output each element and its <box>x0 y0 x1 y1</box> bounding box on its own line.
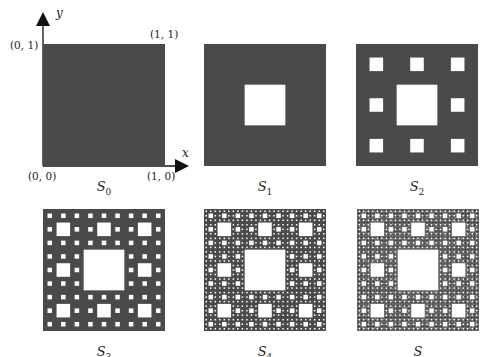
label-s: S <box>414 344 423 357</box>
label-s0: S0 <box>97 179 112 197</box>
coord-top-right: (1, 1) <box>150 28 178 40</box>
carpet-s3 <box>43 209 165 331</box>
carpet-s <box>357 209 479 331</box>
x-axis-label: x <box>182 146 189 160</box>
label-s2: S2 <box>410 179 425 197</box>
y-axis-label: y <box>56 6 63 20</box>
label-s3: S3 <box>97 344 112 357</box>
carpet-s0 <box>43 44 165 166</box>
y-axis-arrow-icon <box>36 12 50 26</box>
carpet-s1 <box>204 44 326 166</box>
coord-bottom-left: (0, 0) <box>28 170 56 182</box>
x-axis-arrow-icon <box>175 159 189 173</box>
label-s4: S4 <box>258 344 273 357</box>
coord-bottom-right: (1, 0) <box>147 170 175 182</box>
carpet-s2 <box>356 44 478 166</box>
coord-top-left: (0, 1) <box>10 39 38 51</box>
label-s1: S1 <box>258 179 273 197</box>
carpet-s4 <box>204 209 326 331</box>
